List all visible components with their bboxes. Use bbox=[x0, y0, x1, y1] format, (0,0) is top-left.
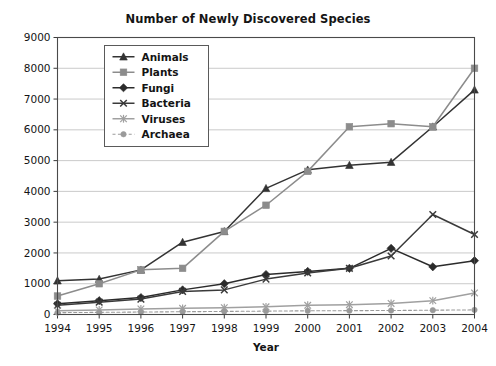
data-point-archaea-2002 bbox=[388, 308, 393, 313]
x-axis-tick-label: 2004 bbox=[461, 322, 488, 334]
x-axis-tick-label: 1998 bbox=[211, 322, 238, 334]
legend-label-fungi: Fungi bbox=[142, 82, 175, 94]
data-point-plants-2000 bbox=[304, 168, 311, 175]
x-axis-tick-label: 2000 bbox=[294, 322, 321, 334]
series-bacteria bbox=[54, 211, 478, 308]
data-point-bacteria-2003 bbox=[430, 211, 437, 218]
series-fungi bbox=[53, 244, 478, 308]
legend-marker-square-icon bbox=[120, 69, 127, 76]
x-axis-tick-label: 1996 bbox=[128, 322, 155, 334]
legend-label-bacteria: Bacteria bbox=[142, 97, 191, 109]
legend-label-plants: Plants bbox=[142, 66, 179, 78]
data-point-fungi-2002 bbox=[387, 244, 395, 252]
data-point-fungi-1997 bbox=[179, 286, 187, 294]
data-point-plants-2002 bbox=[388, 120, 395, 127]
x-axis-tick-label: 2001 bbox=[336, 322, 363, 334]
data-point-plants-1997 bbox=[179, 265, 186, 272]
y-axis-tick-labels: 0100020003000400050006000700080009000 bbox=[24, 31, 51, 320]
data-point-archaea-2003 bbox=[430, 307, 435, 312]
data-point-animals-1999 bbox=[262, 184, 270, 191]
y-axis-tick-label: 5000 bbox=[24, 154, 51, 166]
y-axis-tick-label: 6000 bbox=[24, 123, 51, 135]
y-axis-tick-label: 8000 bbox=[24, 62, 51, 74]
data-point-archaea-1996 bbox=[138, 309, 143, 314]
x-axis-tick-label: 2002 bbox=[378, 322, 405, 334]
data-point-archaea-1997 bbox=[180, 309, 185, 314]
data-point-fungi-1995 bbox=[95, 297, 103, 305]
y-axis-tick-label: 3000 bbox=[24, 216, 51, 228]
x-axis-title: Year bbox=[252, 341, 280, 353]
legend-marker-circle-icon bbox=[121, 132, 126, 137]
chart-container: Number of Newly Discovered Species 01000… bbox=[0, 0, 496, 366]
legend-label-viruses: Viruses bbox=[142, 113, 186, 125]
y-axis-tick-label: 0 bbox=[44, 308, 51, 320]
y-axis-tick-label: 7000 bbox=[24, 93, 51, 105]
data-point-fungi-2003 bbox=[429, 263, 437, 271]
series-line-bacteria bbox=[58, 214, 475, 305]
legend-label-archaea: Archaea bbox=[142, 128, 190, 140]
data-point-plants-1998 bbox=[221, 228, 228, 235]
y-axis-tick-label: 2000 bbox=[24, 247, 51, 259]
line-chart-plot: 0100020003000400050006000700080009000 19… bbox=[0, 0, 496, 366]
data-point-plants-1996 bbox=[138, 267, 145, 274]
data-point-plants-1995 bbox=[96, 280, 103, 287]
x-axis-tick-label: 1994 bbox=[44, 322, 71, 334]
data-point-archaea-2001 bbox=[347, 308, 352, 313]
x-axis-tick-label: 1995 bbox=[86, 322, 113, 334]
x-axis-tick-label: 2003 bbox=[419, 322, 446, 334]
x-axis-tick-label: 1997 bbox=[169, 322, 196, 334]
data-point-fungi-2000 bbox=[304, 267, 312, 275]
data-point-plants-2001 bbox=[346, 123, 353, 130]
data-point-archaea-2000 bbox=[305, 308, 310, 313]
data-point-fungi-1996 bbox=[137, 293, 145, 301]
y-axis-tick-label: 4000 bbox=[24, 185, 51, 197]
y-axis-tick-label: 9000 bbox=[24, 31, 51, 43]
chart-legend: AnimalsPlantsFungiBacteriaVirusesArchaea bbox=[105, 46, 209, 147]
data-point-archaea-1999 bbox=[263, 308, 268, 313]
data-point-plants-1999 bbox=[263, 202, 270, 209]
data-point-fungi-1999 bbox=[262, 270, 270, 278]
y-axis-tick-label: 1000 bbox=[24, 277, 51, 289]
legend-label-animals: Animals bbox=[142, 51, 189, 63]
data-point-archaea-1998 bbox=[222, 309, 227, 314]
data-point-plants-2003 bbox=[430, 123, 437, 130]
x-axis-tick-labels: 1994199519961997199819992000200120022003… bbox=[44, 315, 488, 334]
x-axis-tick-label: 1999 bbox=[253, 322, 280, 334]
